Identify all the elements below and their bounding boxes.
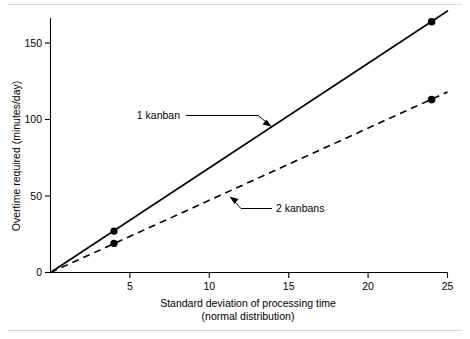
x-axis-title-line1: Standard deviation of processing time — [160, 297, 336, 309]
y-axis-ticks — [45, 43, 51, 273]
annotation-2-kanbans-label: 2 kanbans — [276, 202, 324, 214]
annotation-2-kanbans: 2 kanbans — [230, 197, 325, 215]
y-tick-label-0: 0 — [36, 266, 42, 278]
y-tick-label-100: 100 — [24, 113, 42, 125]
annotation-1-kanban: 1 kanban — [137, 109, 272, 127]
data-point-1-kanban-sigma-4 — [110, 228, 117, 235]
x-tick-label-5: 5 — [127, 280, 133, 292]
x-axis-ticks — [130, 273, 448, 279]
x-axis-title-line2: (normal distribution) — [202, 310, 295, 322]
data-point-1-kanban-sigma-24 — [428, 18, 436, 26]
x-tick-label-10: 10 — [203, 280, 215, 292]
y-tick-label-50: 50 — [30, 190, 42, 202]
data-point-2-kanbans-sigma-24 — [428, 96, 436, 104]
annotation-1-kanban-label: 1 kanban — [137, 109, 180, 121]
chart-canvas: 0 50 100 150 5 10 15 20 25 1 kanban — [0, 0, 470, 339]
figure-container: 0 50 100 150 5 10 15 20 25 1 kanban — [0, 0, 470, 339]
x-tick-label-15: 15 — [283, 280, 295, 292]
y-tick-label-150: 150 — [24, 37, 42, 49]
y-axis-title: Overtime required (minutes/day) — [10, 81, 22, 232]
x-tick-label-25: 25 — [442, 280, 454, 292]
annotation-2-kanbans-arrowhead — [230, 197, 239, 205]
series-line-2-kanbans — [51, 92, 448, 273]
x-tick-label-20: 20 — [362, 280, 374, 292]
data-point-2-kanbans-sigma-4 — [110, 240, 117, 247]
series-line-1-kanban — [51, 11, 448, 273]
